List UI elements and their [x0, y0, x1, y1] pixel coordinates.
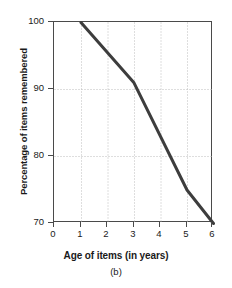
x-tick-label-3: 3 [123, 228, 143, 239]
x-tick-label-6: 6 [202, 228, 222, 239]
x-tick-mark-6 [211, 222, 212, 227]
x-tick-label-0: 0 [43, 228, 63, 239]
vertical-gridlines [81, 22, 187, 223]
y-tick-label-100: 100 [4, 16, 44, 26]
x-tick-label-2: 2 [96, 228, 116, 239]
x-tick-mark-0 [53, 222, 54, 227]
x-tick-mark-4 [159, 222, 160, 227]
x-tick-label-4: 4 [149, 228, 169, 239]
x-tick-mark-3 [133, 222, 134, 227]
x-tick-mark-2 [106, 222, 107, 227]
y-tick-label-80: 80 [4, 150, 44, 160]
data-line-series-1 [81, 22, 214, 223]
x-tick-label-1: 1 [70, 228, 90, 239]
plot-area [53, 21, 212, 222]
y-tick-label-70: 70 [4, 217, 44, 227]
y-axis-title: Percentage of items remembered [16, 21, 32, 222]
figure-caption: (b) [0, 266, 232, 277]
x-tick-mark-5 [186, 222, 187, 227]
chart-canvas [53, 21, 215, 225]
x-axis-title: Age of items (in years) [0, 250, 232, 261]
y-tick-label-90: 90 [4, 83, 44, 93]
chart-figure: Percentage of items remembered 100 90 80… [0, 0, 232, 288]
x-tick-mark-1 [80, 222, 81, 227]
x-tick-label-5: 5 [176, 228, 196, 239]
